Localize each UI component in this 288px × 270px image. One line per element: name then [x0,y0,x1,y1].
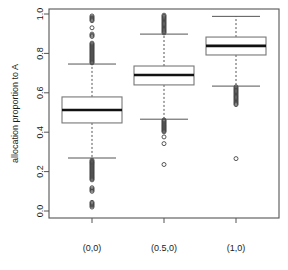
y-tick-label-3: 0.6 [35,87,45,100]
outlier-2-16 [234,157,238,161]
box-group-1 [134,13,194,166]
y-tick-label-4: 0.8 [35,47,45,60]
outlier-0-54 [90,26,94,30]
x-tick-label-0: (0,0) [83,243,102,253]
boxplot-figure: 0.00.20.40.60.81.0allocation proportion … [0,0,288,270]
y-tick-label-2: 0.4 [35,126,45,139]
boxplot-canvas: 0.00.20.40.60.81.0allocation proportion … [0,0,288,270]
y-tick-label-1: 0.2 [35,165,45,178]
outlier-1-15 [162,163,166,167]
outlier-1-13 [162,135,166,139]
y-tick-label-0: 0.0 [35,205,45,218]
box-group-0 [62,14,122,209]
x-tick-label-1: (0.5,0) [151,243,177,253]
x-tick-label-2: (1,0) [227,243,246,253]
y-axis-label: allocation proportion to A [10,64,20,163]
outlier-1-14 [162,142,166,146]
y-tick-label-5: 1.0 [35,8,45,21]
box-group-2 [206,16,266,160]
